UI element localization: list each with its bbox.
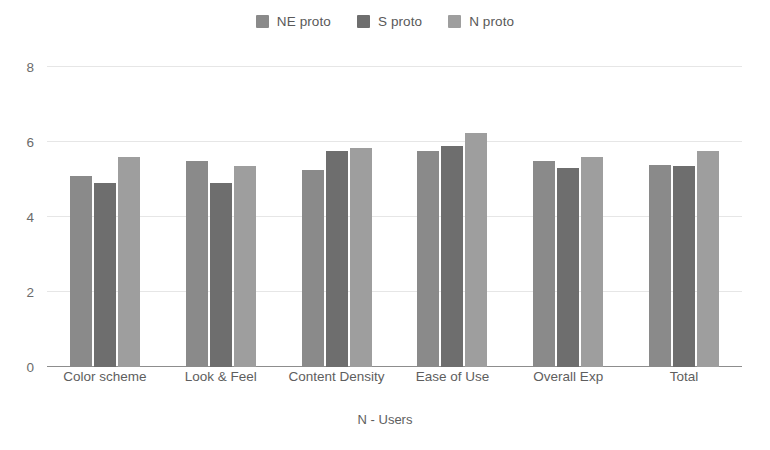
bar-chart: NE protoS protoN proto 02468 Color schem… <box>0 0 770 450</box>
bar[interactable] <box>557 168 579 367</box>
bar-group <box>532 67 604 367</box>
legend-item-label: N proto <box>469 14 514 29</box>
bar-group <box>648 67 720 367</box>
plot-area: 02468 Color schemeLook & FeelContent Den… <box>47 67 742 367</box>
y-axis-tick-label: 2 <box>26 285 34 300</box>
legend-item-label: S proto <box>378 14 422 29</box>
x-axis-tick-label: Total <box>604 369 764 384</box>
bar[interactable] <box>302 170 324 367</box>
bar[interactable] <box>581 157 603 367</box>
bar-groups <box>47 67 742 367</box>
bar-group <box>301 67 373 367</box>
legend-item[interactable]: NE proto <box>256 14 331 29</box>
bar[interactable] <box>649 165 671 368</box>
bar[interactable] <box>465 133 487 367</box>
x-axis-title: N - Users <box>0 412 770 427</box>
legend-swatch-icon <box>357 15 370 28</box>
legend-item[interactable]: S proto <box>357 14 422 29</box>
bar[interactable] <box>210 183 232 367</box>
bar[interactable] <box>533 161 555 367</box>
bar[interactable] <box>94 183 116 367</box>
bar[interactable] <box>70 176 92 367</box>
y-axis-tick-label: 8 <box>26 60 34 75</box>
bar-group <box>69 67 141 367</box>
bar[interactable] <box>234 166 256 367</box>
bar-group <box>416 67 488 367</box>
chart-legend: NE protoS protoN proto <box>0 14 770 29</box>
bar[interactable] <box>417 151 439 367</box>
legend-swatch-icon <box>256 15 269 28</box>
y-axis-tick-label: 4 <box>26 210 34 225</box>
bar[interactable] <box>441 146 463 367</box>
bar[interactable] <box>186 161 208 367</box>
legend-item[interactable]: N proto <box>448 14 514 29</box>
bar[interactable] <box>350 148 372 367</box>
legend-item-label: NE proto <box>277 14 331 29</box>
bar[interactable] <box>326 151 348 367</box>
bar[interactable] <box>118 157 140 367</box>
bar-group <box>185 67 257 367</box>
bar[interactable] <box>697 151 719 367</box>
legend-swatch-icon <box>448 15 461 28</box>
bar[interactable] <box>673 166 695 367</box>
y-axis-tick-label: 6 <box>26 135 34 150</box>
